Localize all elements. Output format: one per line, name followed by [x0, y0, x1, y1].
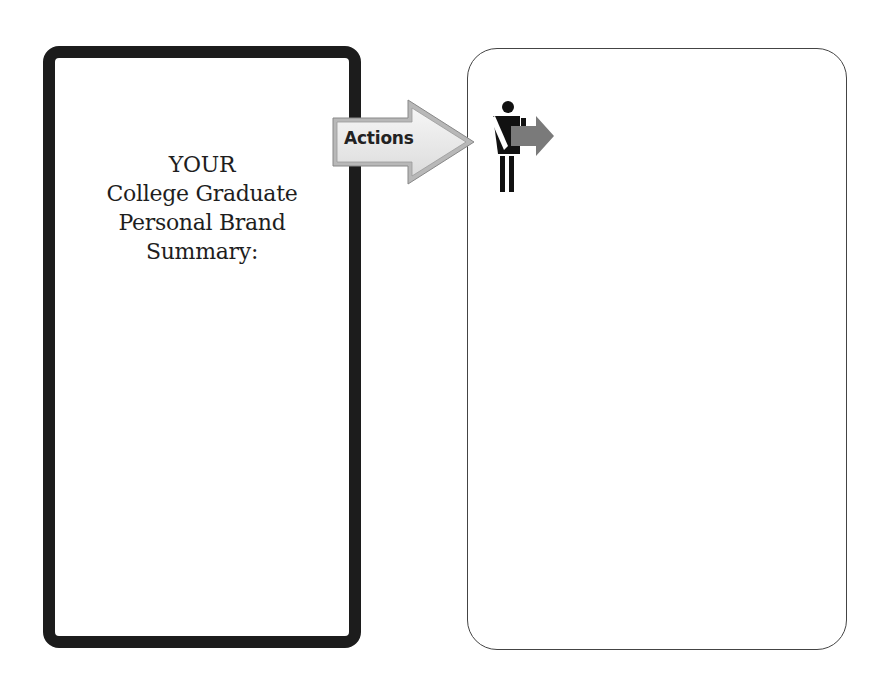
title-line-4: Summary:	[55, 237, 349, 266]
title-line-3: Personal Brand	[55, 208, 349, 237]
title-line-2: College Graduate	[55, 179, 349, 208]
title-line-1: YOUR	[55, 150, 349, 179]
actions-label: Actions	[344, 128, 444, 148]
person-holding-arrow-icon	[486, 98, 558, 194]
brand-summary-panel: YOUR College Graduate Personal Brand Sum…	[43, 46, 361, 648]
brand-summary-title: YOUR College Graduate Personal Brand Sum…	[55, 150, 349, 266]
